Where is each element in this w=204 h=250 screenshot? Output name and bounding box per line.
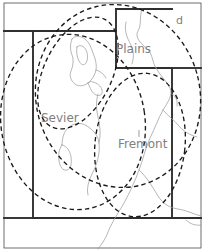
- map-label-plains: Plains: [116, 42, 151, 56]
- map-label-fremont: Fremont: [118, 137, 167, 151]
- map-label-d: d: [176, 14, 183, 27]
- map-canvas: [0, 0, 204, 250]
- map-figure: Plains Sevier Fremont d: [0, 0, 204, 250]
- map-label-sevier: Sevier: [41, 111, 79, 125]
